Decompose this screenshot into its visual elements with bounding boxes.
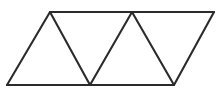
left-slant-edge xyxy=(7,12,50,85)
interior-segment-1 xyxy=(50,12,90,85)
right-slant-edge xyxy=(174,12,214,85)
interior-segment-3 xyxy=(132,12,174,85)
triangle-strip-diagram xyxy=(0,0,221,102)
interior-segment-2 xyxy=(90,12,132,85)
figure-container xyxy=(0,0,221,102)
edge-group xyxy=(7,12,214,85)
